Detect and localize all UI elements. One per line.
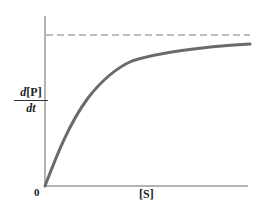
x-axis-label: [S] [139,187,154,202]
rate-curve [45,44,250,186]
y-axis-label: d[P] dt [14,86,48,115]
chart-container: d[P] dt 0 [S] [0,0,267,215]
y-label-dt: dt [26,101,35,115]
origin-label: 0 [34,186,40,198]
y-label-p: [P] [26,85,41,99]
